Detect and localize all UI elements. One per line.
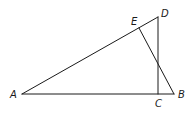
geometry-diagram: A B C D E (0, 0, 195, 116)
segment-AD (22, 17, 158, 94)
label-point-B: B (178, 89, 185, 100)
label-point-C: C (155, 98, 162, 109)
label-point-A: A (9, 89, 17, 100)
label-point-E: E (131, 16, 138, 27)
label-point-D: D (161, 8, 169, 19)
segment-EB (139, 28, 174, 94)
